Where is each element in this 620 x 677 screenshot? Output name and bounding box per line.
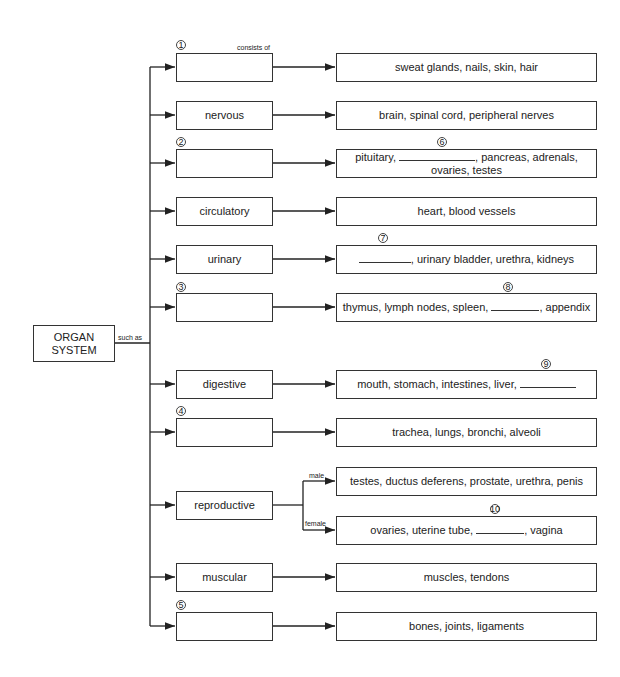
parts-text-pre: ovaries, uterine tube, — [370, 524, 473, 536]
parts-text-pre: mouth, stomach, intestines, liver, — [357, 378, 517, 390]
system-label: circulatory — [199, 205, 249, 218]
answer-blank-6[interactable] — [399, 151, 475, 161]
parts-box-male: testes, ductus deferens, prostate, ureth… — [336, 467, 597, 496]
parts-text: heart, blood vessels — [418, 205, 516, 218]
female-label: female — [305, 520, 326, 527]
parts-text: muscles, tendons — [424, 571, 510, 584]
answer-blank-8[interactable] — [491, 301, 539, 311]
parts-text-post: , pancreas, adrenals, — [475, 151, 578, 163]
parts-text-post: , appendix — [539, 301, 590, 313]
parts-box-nervous: brain, spinal cord, peripheral nerves — [336, 101, 597, 130]
parts-text-post: , vagina — [524, 524, 563, 536]
parts-text: sweat glands, nails, skin, hair — [395, 61, 538, 74]
parts-box-respiratory: trachea, lungs, bronchi, alveoli — [336, 418, 597, 447]
number-marker-5: 5 — [176, 600, 186, 610]
system-box-digestive: digestive — [176, 370, 273, 399]
parts-box-skeletal: bones, joints, ligaments — [336, 612, 597, 641]
number-marker-1: 1 — [176, 40, 186, 50]
parts-box-endocrine: pituitary, , pancreas, adrenals,ovaries,… — [336, 149, 597, 178]
parts-text: brain, spinal cord, peripheral nerves — [379, 109, 554, 122]
number-marker-4: 4 — [176, 406, 186, 416]
number-marker-9: 9 — [541, 359, 551, 369]
such-as-label: such as — [118, 334, 142, 341]
system-box-urinary: urinary — [176, 245, 273, 274]
number-marker-8: 8 — [503, 282, 513, 292]
parts-text-pre: thymus, lymph nodes, spleen, — [343, 301, 489, 313]
root-line2: SYSTEM — [51, 344, 96, 357]
consists-of-label: consists of — [237, 44, 270, 51]
system-box-nervous: nervous — [176, 101, 273, 130]
parts-box-female: ovaries, uterine tube, , vagina — [336, 516, 597, 545]
parts-text-line2: ovaries, testes — [355, 164, 578, 177]
parts-text-pre: pituitary, — [355, 151, 396, 163]
parts-box-circulatory: heart, blood vessels — [336, 197, 597, 226]
system-box-reproductive: reproductive — [176, 491, 273, 520]
number-marker-7: 7 — [378, 233, 388, 243]
number-marker-6: 6 — [437, 137, 447, 147]
system-label: nervous — [205, 109, 244, 122]
system-blank-3[interactable] — [176, 293, 273, 322]
parts-box-muscular: muscles, tendons — [336, 563, 597, 592]
system-label: urinary — [208, 253, 242, 266]
parts-text-post: , urinary bladder, urethra, kidneys — [411, 253, 574, 265]
root-line1: ORGAN — [51, 331, 96, 344]
parts-box-lymphatic: thymus, lymph nodes, spleen, , appendix — [336, 293, 597, 322]
system-box-muscular: muscular — [176, 563, 273, 592]
system-box-circulatory: circulatory — [176, 197, 273, 226]
parts-text: bones, joints, ligaments — [409, 620, 524, 633]
parts-box-digestive: mouth, stomach, intestines, liver, — [336, 370, 597, 399]
system-blank-5[interactable] — [176, 612, 273, 641]
answer-blank-10[interactable] — [476, 524, 524, 534]
male-label: male — [309, 472, 324, 479]
system-blank-4[interactable] — [176, 418, 273, 447]
number-marker-3: 3 — [176, 282, 186, 292]
answer-blank-9[interactable] — [520, 378, 576, 388]
system-label: digestive — [203, 378, 246, 391]
system-label: muscular — [202, 571, 247, 584]
system-blank-2[interactable] — [176, 149, 273, 178]
parts-box-urinary: , urinary bladder, urethra, kidneys — [336, 245, 597, 274]
number-marker-10: 10 — [490, 504, 500, 514]
parts-text: testes, ductus deferens, prostate, ureth… — [350, 475, 583, 488]
system-blank-1[interactable] — [176, 53, 273, 82]
number-marker-2: 2 — [176, 137, 186, 147]
answer-blank-7[interactable] — [359, 253, 411, 263]
parts-box-integumentary: sweat glands, nails, skin, hair — [336, 53, 597, 82]
parts-text: trachea, lungs, bronchi, alveoli — [392, 426, 541, 439]
system-label: reproductive — [194, 499, 255, 512]
organ-system-box: ORGANSYSTEM — [33, 325, 115, 362]
